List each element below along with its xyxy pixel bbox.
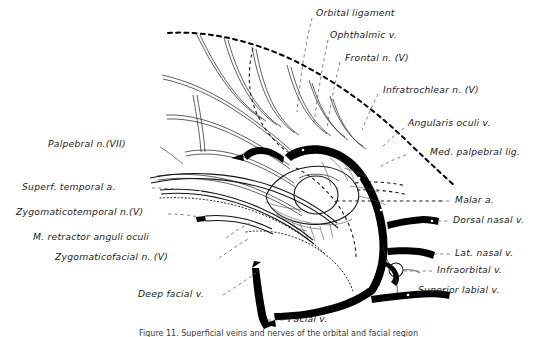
lat-nasal-vein <box>387 247 435 259</box>
dorsal-nasal-vein <box>387 216 439 229</box>
angularis-oculi-vein <box>285 145 388 293</box>
label-med-palpebral-ligament: Med. palpebral lig. <box>430 147 520 156</box>
label-superf-temporal-artery: Superf. temporal a. <box>22 182 116 191</box>
leader-lines <box>152 18 452 320</box>
label-deep-facial-vein: Deep facial v. <box>138 289 204 298</box>
label-infraorbital-vein: Infraorbital v. <box>437 265 502 274</box>
label-zygomaticotemporal-nerve: Zygomaticotemporal n.(V) <box>16 207 143 216</box>
label-ophthalmic-vein: Ophthalmic v. <box>330 30 397 39</box>
label-malar-artery: Malar a. <box>455 195 494 204</box>
label-m-retractor-anguli-oculi: M. retractor anguli oculi <box>33 232 149 241</box>
label-dorsal-nasal-vein: Dorsal nasal v. <box>453 215 524 224</box>
frontal-nerve-branches <box>196 33 366 149</box>
label-zygomaticofacial-nerve: Zygomaticofacial n. (V) <box>55 252 168 261</box>
label-infratrochlear-nerve: Infratrochlear n. (V) <box>383 85 479 94</box>
label-lat-nasal-vein: Lat. nasal v. <box>455 248 513 257</box>
anatomical-figure: Orbital ligament Ophthalmic v. Frontal n… <box>0 0 557 337</box>
cheek-dotted-outline <box>246 231 353 292</box>
label-palpebral-nerve: Palpebral n.(VII) <box>48 139 126 148</box>
label-angularis-oculi-vein: Angularis oculi v. <box>408 118 491 127</box>
deep-facial-vein <box>252 261 271 329</box>
zygomatic-arch-dashed <box>296 168 356 258</box>
lower-lid-plexus <box>265 202 352 241</box>
cornea-outline <box>294 176 338 214</box>
label-orbital-ligament: Orbital ligament <box>316 8 395 17</box>
head-profile-dashed-outline <box>168 33 455 186</box>
label-facial-vein: Facial v. <box>288 314 327 323</box>
superficial-temporal-branches <box>157 75 302 216</box>
figure-caption: Figure 11. Superficial veins and nerves … <box>0 329 557 337</box>
palpebral-nerve-arc <box>150 174 338 228</box>
label-superior-labial-vein: Superior labial v. <box>418 285 500 294</box>
label-frontal-nerve: Frontal n. (V) <box>345 53 409 62</box>
